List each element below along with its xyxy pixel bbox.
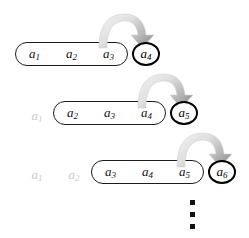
incoming-element-step-1: a4 [132,42,160,66]
sliding-window-diagram: a1 a2 a3 a4 a1 a2 a3 a4 a5 a1 a2 a3 a4 a… [0,0,249,238]
dropped-element: a1 [26,164,48,186]
incoming-term: a6 [217,164,228,180]
incoming-term: a4 [141,46,152,62]
window-term: a3 [104,105,115,121]
window-term: a3 [105,164,116,180]
window-term: a2 [66,46,77,62]
ellipsis-dot [190,200,195,205]
window-term: a1 [29,46,40,62]
dropped-element: a1 [26,105,48,127]
vertical-ellipsis [186,199,200,235]
incoming-term: a5 [179,105,190,121]
ellipsis-dot [190,224,195,229]
incoming-element-step-3: a6 [208,160,236,184]
sequence-row-step-3: a1 a2 a3 a4 a5 a6 [0,160,249,190]
incoming-element-step-2: a5 [170,101,198,125]
ellipsis-dot [190,212,195,217]
sequence-row-step-2: a1 a2 a3 a4 a5 [0,101,249,131]
window-term: a4 [142,164,153,180]
window-term: a2 [67,105,78,121]
dropped-element: a2 [63,164,85,186]
